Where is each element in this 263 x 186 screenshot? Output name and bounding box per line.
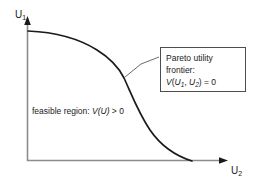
callout-leader-line [125, 57, 159, 77]
pareto-frontier-figure [0, 0, 263, 186]
feasible-region-label: feasible region: V(U) > 0 [32, 107, 124, 116]
x-axis [27, 157, 228, 164]
x-axis-label: U2 [231, 166, 242, 176]
callout-line-1: Pareto utility [166, 52, 245, 64]
callout-line-2: frontier: [166, 64, 245, 76]
y-axis [24, 16, 31, 161]
callout-formula: V(U1, U2) = 0 [166, 76, 245, 89]
y-axis-label: U1 [15, 10, 26, 20]
pareto-frontier-callout-box: Pareto utility frontier: V(U1, U2) = 0 [160, 47, 246, 92]
x-axis-arrow-icon [219, 157, 228, 164]
